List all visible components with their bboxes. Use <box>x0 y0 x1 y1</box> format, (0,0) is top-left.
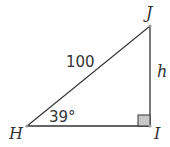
vertex-h-dot <box>25 124 28 127</box>
vertex-label-j: J <box>143 3 154 22</box>
vertex-label-h: H <box>8 124 24 143</box>
vertex-label-i: I <box>153 124 161 143</box>
vertex-i-dot <box>148 124 151 127</box>
angle-label: 39° <box>49 108 76 126</box>
right-angle-marker <box>138 115 150 126</box>
triangle-hji <box>27 26 150 126</box>
triangle-diagram: H I J 100 h 39° <box>0 0 170 147</box>
hypotenuse-label: 100 <box>66 53 95 71</box>
side-h-label: h <box>157 62 167 81</box>
vertex-j-dot <box>148 24 151 27</box>
